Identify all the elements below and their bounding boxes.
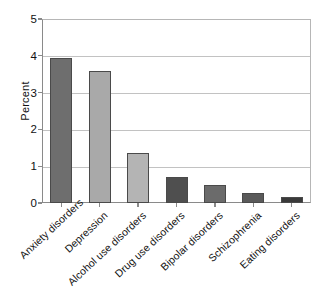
y-tick-label: 2	[31, 123, 37, 135]
y-tick-label: 4	[31, 50, 37, 62]
bars-layer	[42, 19, 311, 203]
bar	[166, 177, 188, 203]
x-tick-mark	[291, 203, 292, 207]
x-tick-mark	[137, 203, 138, 207]
bar-chart: Percent 012345 Anxiety disordersDepressi…	[0, 0, 321, 306]
y-tick-label: 1	[31, 160, 37, 172]
x-tick-label: Eating disorders	[79, 209, 302, 306]
x-tick-mark	[253, 203, 254, 207]
x-tick-mark	[176, 203, 177, 207]
bar	[50, 58, 72, 203]
y-tick-label: 5	[31, 13, 37, 25]
x-tick-mark	[61, 203, 62, 207]
x-tick-mark	[214, 203, 215, 207]
x-tick-mark	[99, 203, 100, 207]
bar	[204, 185, 226, 203]
bar	[127, 153, 149, 203]
y-tick-label: 3	[31, 87, 37, 99]
bar	[89, 71, 111, 203]
x-axis-labels: Anxiety disordersDepressionAlcohol use d…	[0, 203, 321, 306]
bar	[242, 193, 264, 203]
